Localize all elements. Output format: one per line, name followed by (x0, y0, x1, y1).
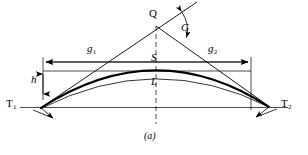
label-tangent-point-T2: T2 (281, 98, 292, 111)
tangent-arrow-right (256, 107, 269, 117)
label-tangent-point-T1: T1 (6, 98, 17, 111)
label-grade-g2: g2 (208, 43, 217, 56)
label-offset-h: h (31, 74, 37, 85)
label-grade-g1: g1 (87, 43, 96, 56)
left-tangent-line (40, 2, 197, 109)
figure-caption: (a) (144, 131, 156, 141)
right-tangent-line (156, 26, 270, 107)
tangent-arrow-left-leader (33, 110, 53, 118)
figure-container: Q G g1 g2 S h L T1 T2 (a) (0, 0, 308, 155)
label-apex-Q: Q (149, 8, 157, 19)
label-g1-subscript: 1 (93, 48, 97, 56)
label-sight-distance-S: S (151, 52, 157, 63)
label-curve-length-L: L (151, 76, 157, 87)
label-T1-subscript: 1 (13, 103, 17, 111)
label-T2-subscript: 2 (288, 103, 292, 111)
tangent-arrow-left (41, 108, 53, 118)
label-grade-angle-G: G (181, 22, 189, 33)
tangent-arrow-right-leader (256, 109, 277, 117)
label-g2-subscript: 2 (214, 48, 218, 56)
